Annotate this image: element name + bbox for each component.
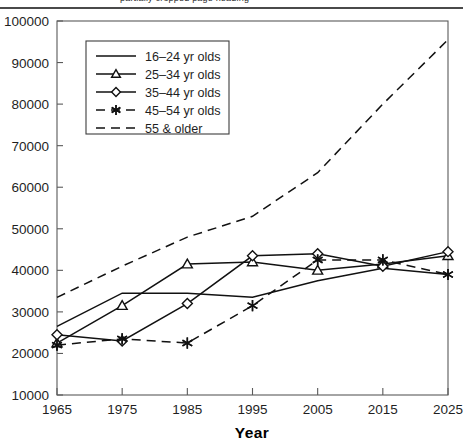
y-tick-label: 60000 <box>11 180 49 195</box>
marker-diamond <box>182 299 192 309</box>
page-header-strip: partially cropped page heading <box>0 0 463 10</box>
x-axis-ticks <box>57 388 448 395</box>
y-tick-label: 100000 <box>4 14 49 29</box>
chart-legend: 16–24 yr olds25–34 yr olds35–44 yr olds4… <box>86 41 229 136</box>
chart-canvas: 1000020000300004000050000600007000080000… <box>0 10 463 443</box>
legend-label: 45–54 yr olds <box>145 104 221 118</box>
y-tick-label: 40000 <box>11 263 49 278</box>
x-tick-label: 1975 <box>107 402 137 417</box>
legend-label: 35–44 yr olds <box>145 86 221 100</box>
x-axis-tick-labels: 1965197519851995200520152025 <box>42 402 463 417</box>
y-tick-label: 10000 <box>11 388 49 403</box>
legend-label: 25–34 yr olds <box>145 68 221 82</box>
x-tick-label: 2005 <box>303 402 333 417</box>
marker-star <box>248 300 258 311</box>
clipped-header-text: partially cropped page heading <box>120 0 249 3</box>
marker-diamond <box>443 247 453 257</box>
x-tick-label: 2025 <box>433 402 463 417</box>
x-axis-title: Year <box>235 424 269 441</box>
y-tick-label: 70000 <box>11 139 49 154</box>
y-tick-label: 20000 <box>11 346 49 361</box>
y-tick-label: 50000 <box>11 222 49 237</box>
marker-diamond <box>52 330 62 340</box>
y-axis-tick-labels: 1000020000300004000050000600007000080000… <box>4 14 49 403</box>
y-tick-label: 90000 <box>11 56 49 71</box>
legend-label: 55 & older <box>145 122 202 136</box>
y-tick-label: 80000 <box>11 97 49 112</box>
y-tick-label: 30000 <box>11 305 49 320</box>
series-1 <box>57 268 448 326</box>
x-tick-label: 1965 <box>42 402 72 417</box>
series-path <box>57 268 448 326</box>
marker-diamond <box>248 251 258 261</box>
header-divider-rule <box>0 7 463 9</box>
x-tick-label: 1995 <box>237 402 267 417</box>
x-tick-label: 1985 <box>172 402 202 417</box>
marker-triangle <box>117 301 127 310</box>
x-tick-label: 2015 <box>368 402 398 417</box>
line-chart-figure: 1000020000300004000050000600007000080000… <box>0 10 463 443</box>
legend-label: 16–24 yr olds <box>145 50 221 64</box>
